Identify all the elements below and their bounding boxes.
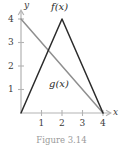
y-axis xyxy=(18,10,24,113)
curve-label-f: f(x) xyxy=(51,2,68,12)
x-tick-label-4: 4 xyxy=(100,119,106,128)
x-axis xyxy=(21,110,111,116)
y-tick-label-3: 3 xyxy=(8,38,14,47)
y-tick-label-2: 2 xyxy=(8,62,14,71)
y-tick-label-4: 4 xyxy=(8,15,14,24)
x-tick-label-2: 2 xyxy=(59,119,65,128)
figure-container: y x 1 2 3 4 1 2 3 4 f(x) g(x) Figure 3.1… xyxy=(0,0,123,145)
y-axis-label: y xyxy=(24,1,29,10)
curve-label-g: g(x) xyxy=(49,79,69,89)
figure-caption: Figure 3.14 xyxy=(0,135,123,145)
x-tick-label-3: 3 xyxy=(80,119,86,128)
curve-g xyxy=(21,19,103,113)
y-tick-label-1: 1 xyxy=(8,85,14,94)
x-axis-label: x xyxy=(113,108,118,117)
x-tick-label-1: 1 xyxy=(39,119,45,128)
